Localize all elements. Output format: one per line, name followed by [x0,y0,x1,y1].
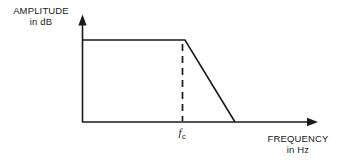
x-axis-arrowhead-icon [307,118,318,126]
x-axis-title-line2: in Hz [258,144,338,155]
y-axis-title-line2: in dB [8,16,74,27]
x-axis [82,118,318,126]
filter-response-figure: AMPLITUDE in dB FREQUENCY in Hz fc [0,0,343,166]
cutoff-frequency-label: fc [170,127,194,139]
y-axis [78,15,86,123]
x-axis-title: FREQUENCY in Hz [258,133,338,155]
y-axis-arrowhead-icon [78,15,86,26]
x-axis-title-line1: FREQUENCY [268,133,329,144]
y-axis-title-line1: AMPLITUDE [13,5,69,16]
cutoff-subscript: c [182,132,186,141]
y-axis-title: AMPLITUDE in dB [8,5,74,27]
filter-response-curve [83,40,236,122]
